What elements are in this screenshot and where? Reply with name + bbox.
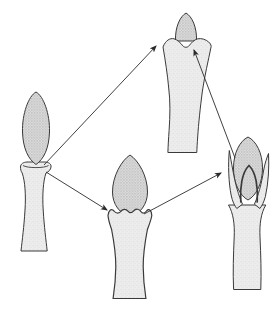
exposed-bud-stalk xyxy=(21,162,52,251)
node-stage-long-lobed-bud xyxy=(229,137,269,290)
node-stage-clasped-bud xyxy=(108,155,152,299)
clasped-bud xyxy=(113,155,148,217)
enclosed-bud-tip xyxy=(175,13,196,41)
pathway-diagram xyxy=(0,0,277,309)
diagram-canvas xyxy=(0,0,277,309)
exposed-bud xyxy=(22,92,49,165)
node-stage-exposed-bud xyxy=(21,92,52,251)
long-lobed-bud-stalk xyxy=(229,205,266,290)
clasped-bud-collar-stalk xyxy=(108,209,152,298)
arrow-stage-exposed-bud-to-stage-enclosed-bud xyxy=(44,46,156,165)
node-stage-enclosed-bud xyxy=(163,13,211,153)
arrow-stage-exposed-bud-to-stage-clasped-bud xyxy=(46,172,107,210)
enclosed-bud-tube xyxy=(163,39,211,153)
arrow-stage-clasped-bud-to-stage-long-lobed-bud xyxy=(144,173,221,214)
